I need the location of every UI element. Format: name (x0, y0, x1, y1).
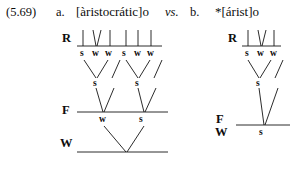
foot1-right-branch-a (97, 60, 108, 78)
f-stroke-a-2 (138, 88, 144, 112)
f-stroke-a-3 (145, 88, 156, 112)
w-stroke-a-0 (104, 126, 126, 152)
r-stroke-b-2 (262, 30, 266, 46)
w-stroke-a-1 (127, 126, 144, 152)
foot1-left-branch-b (248, 60, 259, 78)
foot1-right-branch-b (260, 60, 271, 78)
fw-stroke-b-1 (265, 88, 278, 125)
foot2-extra-branch-a (154, 60, 162, 78)
r-stroke-a-2 (97, 30, 101, 46)
foot2-right-branch-a (139, 60, 150, 78)
r-stroke-a-1 (93, 30, 96, 46)
metrical-grid-figure: (5.69) a. [àristocrátic]o vs. b. *[árist… (0, 0, 304, 169)
grid-linework (0, 0, 304, 169)
foot1-left-branch-a (84, 60, 96, 78)
foot2-left-branch-a (126, 60, 138, 78)
foot1-extra-branch-a (112, 60, 120, 78)
foot1-extra-branch-b (275, 60, 283, 78)
f-stroke-a-1 (104, 88, 114, 112)
f-stroke-a-0 (96, 88, 103, 112)
fw-stroke-b-0 (259, 88, 264, 125)
r-stroke-b-1 (258, 30, 261, 46)
